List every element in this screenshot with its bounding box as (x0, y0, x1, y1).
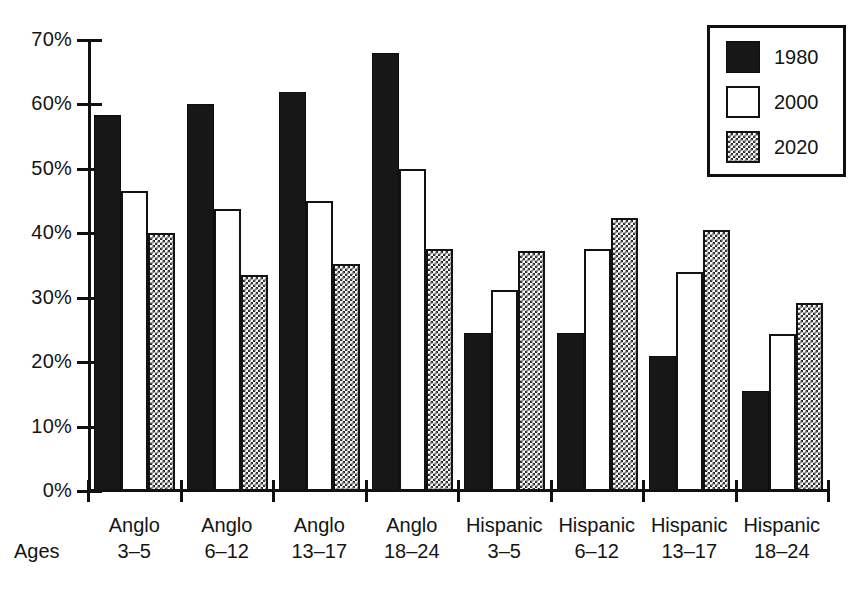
bar-anglo-13-17-1980 (279, 92, 306, 491)
bar-anglo-13-17-2020 (333, 264, 360, 491)
bar-hispanic-6-12-2020 (611, 218, 638, 491)
legend-entry-2020: 2020 (710, 125, 843, 169)
x-axis-category-label: Hispanic18–24 (727, 512, 837, 564)
legend: 1980 2000 2020 (707, 25, 846, 177)
bar-hispanic-13-17-2020 (703, 230, 730, 491)
bar-hispanic-13-17-2000 (676, 272, 703, 491)
legend-entry-2000: 2000 (710, 80, 843, 124)
bar-anglo-6-12-2020 (241, 275, 268, 491)
bar-anglo-6-12-1980 (187, 104, 214, 491)
bar-anglo-3-5-1980 (94, 115, 121, 491)
bar-hispanic-18-24-1980 (742, 391, 769, 492)
bar-anglo-6-12-2000 (214, 209, 241, 491)
bar-anglo-18-24-1980 (372, 53, 399, 491)
bar-hispanic-18-24-2020 (796, 303, 823, 491)
bar-hispanic-3-5-2020 (518, 251, 545, 491)
bar-hispanic-13-17-1980 (649, 356, 676, 491)
legend-swatch-2000-icon (726, 86, 760, 118)
legend-label-2000: 2000 (774, 92, 819, 112)
bar-hispanic-6-12-2000 (584, 249, 611, 491)
bar-hispanic-6-12-1980 (557, 333, 584, 491)
category-label-line1: Hispanic (727, 512, 837, 538)
legend-swatch-1980-icon (726, 41, 760, 73)
legend-entry-1980: 1980 (710, 35, 843, 79)
bar-hispanic-3-5-2000 (491, 290, 518, 491)
x-axis-title: Ages (14, 538, 60, 564)
bar-hispanic-3-5-1980 (464, 333, 491, 491)
legend-swatch-2020-icon (726, 131, 760, 163)
bar-hispanic-18-24-2000 (769, 334, 796, 491)
bar-anglo-18-24-2020 (426, 249, 453, 491)
bar-anglo-13-17-2000 (306, 201, 333, 491)
bar-anglo-18-24-2000 (399, 169, 426, 491)
legend-label-2020: 2020 (774, 137, 819, 157)
bar-chart: 0%10%20%30%40%50%60%70% Anglo3–5Anglo6–1… (0, 0, 864, 592)
legend-label-1980: 1980 (774, 47, 819, 67)
category-label-line2: 18–24 (727, 538, 837, 564)
bar-anglo-3-5-2000 (121, 191, 148, 491)
bar-anglo-3-5-2020 (148, 233, 175, 491)
